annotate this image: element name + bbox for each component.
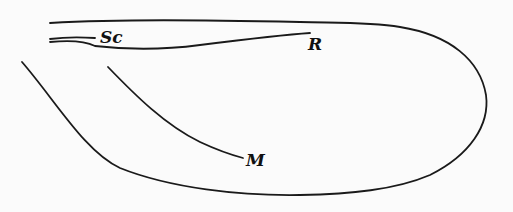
vein-radius	[50, 33, 310, 49]
vein-subcosta	[50, 37, 95, 39]
label-m: M	[245, 150, 266, 170]
vein-media	[108, 67, 243, 158]
label-sc: Sc	[100, 27, 123, 47]
wing-diagram: Sc R M	[0, 0, 513, 212]
label-r: R	[307, 34, 322, 54]
